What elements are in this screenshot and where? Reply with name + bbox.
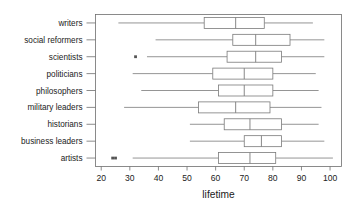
x-tick-label: 90 [297,173,307,183]
x-tick-label: 30 [125,173,135,183]
box-iqr [198,102,270,113]
boxplot-chart: 2030405060708090100lifetimewriterssocial… [0,0,352,208]
x-tick-label: 60 [211,173,221,183]
x-tick-label: 100 [323,173,338,183]
category-label: artists [61,154,83,163]
outlier-point [134,55,137,58]
x-tick-label: 40 [154,173,164,183]
box-iqr [219,153,276,164]
category-label: politicians [47,70,83,79]
box-iqr [244,136,281,147]
category-label: writers [57,19,82,28]
box-iqr [224,119,281,130]
x-tick-label: 20 [96,173,106,183]
x-tick-label: 50 [182,173,192,183]
box-iqr [227,51,281,62]
category-label: social reformers [24,36,82,45]
box-iqr [213,68,273,79]
plot-area: 2030405060708090100lifetimewriterssocial… [0,0,352,208]
x-tick-label: 80 [268,173,278,183]
category-label: scientists [49,53,83,62]
category-label: philosophers [36,87,82,96]
outlier-point [114,157,117,160]
x-axis-title: lifetime [202,189,235,200]
category-label: historians [47,120,82,129]
category-label: business leaders [21,137,82,146]
x-tick-label: 70 [239,173,249,183]
category-label: military leaders [27,103,82,112]
box-iqr [233,34,290,45]
outlier-point [111,157,114,160]
box-iqr [204,17,264,28]
box-iqr [219,85,273,96]
